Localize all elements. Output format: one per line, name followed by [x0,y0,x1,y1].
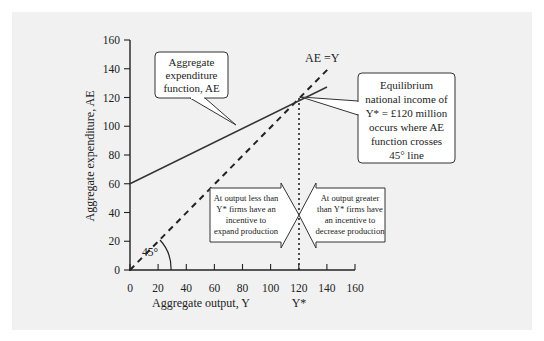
svg-text:40: 40 [181,282,193,294]
x-axis-ticks [130,264,355,270]
svg-text:0: 0 [114,264,120,276]
y-axis-title: Aggregate expenditure, AE [83,91,97,222]
equilibrium-callout: Equilibrium national income of Y* = £120… [301,73,455,163]
svg-text:20: 20 [152,282,164,294]
svg-text:Aggregate: Aggregate [169,56,215,68]
ae-function-line [130,87,327,184]
45-degree-line-label: AE =Y [305,51,340,65]
expand-production-arrow: At output less than Y* firms have an inc… [210,183,299,248]
svg-text:At output less than: At output less than [214,193,279,203]
svg-text:0: 0 [127,282,133,294]
svg-text:80: 80 [109,149,121,161]
equilibrium-x-label: Y* [292,296,307,310]
x-axis-tick-labels: 0 20 40 60 80 100 120 140 160 [127,282,364,294]
svg-text:40: 40 [109,207,121,219]
svg-text:decrease production: decrease production [316,226,386,236]
svg-text:45° line: 45° line [389,149,424,161]
svg-text:100: 100 [262,282,280,294]
ae-callout: Aggregate expenditure function, AE [155,52,236,125]
svg-text:than Y* firms have: than Y* firms have [317,204,383,214]
svg-text:80: 80 [237,282,249,294]
svg-text:140: 140 [103,63,121,75]
angle-arc [160,240,171,270]
svg-text:national income of: national income of [365,93,448,105]
y-axis-ticks [124,40,130,270]
svg-text:function crosses: function crosses [371,135,442,147]
svg-text:Y* firms have an: Y* firms have an [216,204,276,214]
svg-text:120: 120 [103,92,121,104]
svg-text:120: 120 [290,282,308,294]
svg-text:160: 160 [103,34,121,46]
svg-text:100: 100 [103,120,121,132]
angle-label: 45° [142,246,159,258]
ae-chart: 0 20 40 60 80 100 120 140 160 0 20 40 60… [0,0,544,341]
svg-text:60: 60 [209,282,221,294]
svg-text:occurs where AE: occurs where AE [369,121,444,133]
svg-text:function, AE: function, AE [163,82,219,94]
svg-text:20: 20 [109,235,121,247]
svg-text:60: 60 [109,178,121,190]
svg-text:Equilibrium: Equilibrium [380,79,434,91]
decrease-production-arrow: At output greater than Y* firms have an … [299,183,385,248]
svg-text:incentive to: incentive to [226,215,266,225]
svg-text:an incentive to: an incentive to [325,215,376,225]
svg-text:expenditure: expenditure [166,69,218,81]
svg-text:160: 160 [346,282,364,294]
svg-text:expand production: expand production [214,226,279,236]
svg-text:At output greater: At output greater [321,193,380,203]
svg-text:140: 140 [318,282,336,294]
y-axis-tick-labels: 0 20 40 60 80 100 120 140 160 [103,34,121,276]
svg-text:Y* = £120 million: Y* = £120 million [366,107,448,119]
x-axis-title: Aggregate output, Y [152,296,250,310]
